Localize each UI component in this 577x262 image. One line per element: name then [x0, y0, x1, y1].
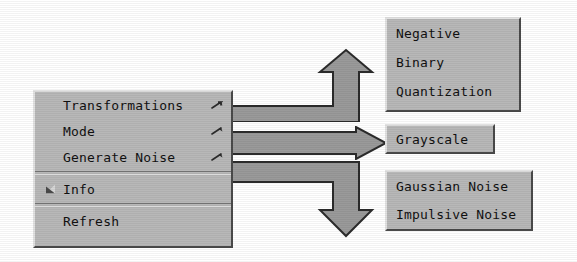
block-arrow-icon	[228, 127, 386, 159]
submenu-item-label: Binary	[396, 56, 444, 69]
submenu-item-label: Gaussian Noise	[396, 180, 508, 193]
connector-arrow-transformations	[228, 48, 398, 122]
menu-item-refresh[interactable]: Refresh	[35, 208, 231, 234]
submenu-transformations: Negative Binary Quantization	[385, 17, 521, 112]
checkbox-indicator-icon	[46, 185, 55, 194]
menu-item-label: Generate Noise	[63, 151, 175, 164]
submenu-item-label: Negative	[396, 27, 460, 40]
submenu-item-grayscale[interactable]: Grayscale	[387, 126, 493, 152]
submenu-item-binary[interactable]: Binary	[387, 48, 519, 77]
submenu-item-gaussian-noise[interactable]: Gaussian Noise	[387, 172, 531, 200]
menu-item-label: Transformations	[63, 99, 183, 112]
connector-arrow-mode	[228, 126, 388, 160]
submenu-arrow-icon	[211, 152, 223, 162]
context-menu: Transformations Mode Generate Noise Info…	[33, 90, 233, 248]
submenu-generate-noise: Gaussian Noise Impulsive Noise	[385, 170, 533, 231]
menu-item-info[interactable]: Info	[35, 176, 231, 202]
menu-item-transformations[interactable]: Transformations	[35, 92, 231, 118]
menu-separator	[35, 203, 231, 207]
menu-item-mode[interactable]: Mode	[35, 118, 231, 144]
submenu-item-quantization[interactable]: Quantization	[387, 77, 519, 106]
submenu-item-label: Impulsive Noise	[396, 208, 516, 221]
block-arrow-icon	[228, 50, 372, 122]
submenu-item-label: Grayscale	[396, 133, 468, 146]
block-arrow-icon	[228, 162, 372, 236]
submenu-item-impulsive-noise[interactable]: Impulsive Noise	[387, 200, 531, 228]
menu-item-label: Mode	[63, 125, 95, 138]
submenu-arrow-icon	[211, 126, 223, 136]
submenu-arrow-icon	[211, 100, 223, 110]
menu-item-label: Refresh	[63, 215, 119, 228]
menu-item-label: Info	[63, 183, 95, 196]
connector-arrow-noise	[228, 160, 398, 242]
menu-separator	[35, 171, 231, 175]
menu-item-generate-noise[interactable]: Generate Noise	[35, 144, 231, 170]
submenu-item-negative[interactable]: Negative	[387, 19, 519, 48]
submenu-mode: Grayscale	[385, 124, 495, 154]
submenu-item-label: Quantization	[396, 85, 492, 98]
